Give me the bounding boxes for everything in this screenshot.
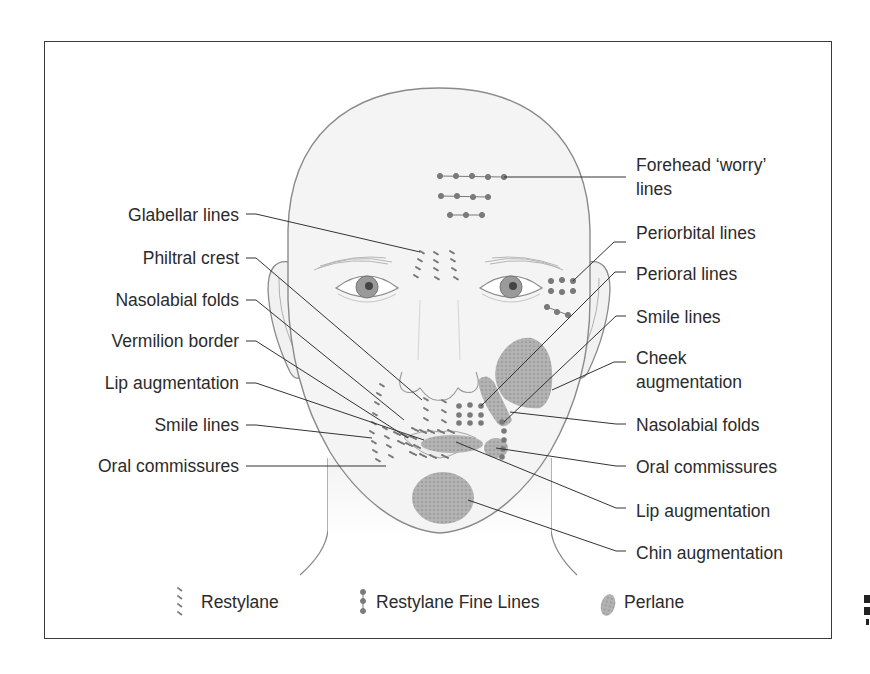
textured-blob-icon bbox=[598, 593, 617, 618]
dotted-column-icon bbox=[361, 590, 366, 614]
legend-restylane-fine-lines: Restylane Fine Lines bbox=[376, 592, 539, 613]
label-lip-augmentation-right: Lip augmentation bbox=[636, 501, 770, 521]
cropped-text-fragment bbox=[864, 595, 870, 603]
perioral-dots bbox=[456, 402, 484, 426]
label-glabellar-lines: Glabellar lines bbox=[128, 205, 239, 225]
label-line: lines bbox=[636, 179, 766, 199]
legend-perlane: Perlane bbox=[624, 592, 684, 613]
legend-restylane: Restylane bbox=[201, 592, 279, 613]
cropped-text-fragment bbox=[866, 619, 869, 625]
legend-label: Restylane bbox=[201, 592, 279, 613]
label-nasolabial-folds-right: Nasolabial folds bbox=[636, 415, 760, 435]
dashed-lines-icon bbox=[178, 588, 182, 615]
label-cheek-augmentation: Cheek augmentation bbox=[636, 348, 742, 392]
label-lip-augmentation-left: Lip augmentation bbox=[105, 373, 239, 393]
label-line: Forehead ‘worry’ bbox=[636, 155, 766, 175]
label-philtral-crest: Philtral crest bbox=[143, 248, 239, 268]
cropped-text-fragment bbox=[864, 607, 870, 615]
label-perioral-lines: Perioral lines bbox=[636, 264, 737, 284]
label-forehead-worry-lines: Forehead ‘worry’ lines bbox=[636, 155, 766, 199]
label-oral-commissures-left: Oral commissures bbox=[98, 456, 239, 476]
label-line: Cheek bbox=[636, 348, 742, 368]
label-smile-lines-right: Smile lines bbox=[636, 307, 721, 327]
lip-perlane bbox=[421, 435, 483, 453]
label-line: augmentation bbox=[636, 372, 742, 392]
label-chin-augmentation: Chin augmentation bbox=[636, 543, 783, 563]
label-periorbital-lines: Periorbital lines bbox=[636, 223, 756, 243]
label-smile-lines-left: Smile lines bbox=[154, 415, 239, 435]
label-nasolabial-folds-left: Nasolabial folds bbox=[115, 290, 239, 310]
legend-label: Perlane bbox=[624, 592, 684, 613]
label-vermilion-border: Vermilion border bbox=[112, 331, 239, 351]
label-oral-commissures-right: Oral commissures bbox=[636, 457, 777, 477]
chin-perlane bbox=[412, 472, 474, 524]
legend-label: Restylane Fine Lines bbox=[376, 592, 539, 613]
